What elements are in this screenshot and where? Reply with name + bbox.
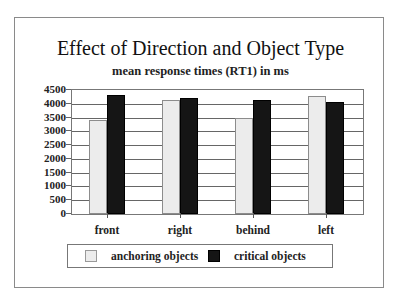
bar-front-anchoring	[89, 120, 107, 215]
x-label-right: right	[144, 224, 216, 237]
bar-left-anchoring	[308, 96, 326, 214]
x-tick-mark	[253, 213, 254, 218]
x-tick-mark	[107, 213, 108, 218]
chart-title: Effect of Direction and Object Type	[0, 37, 401, 59]
y-tick-label: 3000	[20, 124, 66, 136]
y-tick-label: 500	[20, 193, 66, 205]
x-label-left: left	[290, 224, 362, 237]
bar-behind-critical	[253, 100, 271, 214]
legend-label-anchoring: anchoring objects	[111, 249, 198, 263]
x-label-behind: behind	[217, 224, 289, 237]
y-tick-label: 1500	[20, 166, 66, 178]
legend-label-critical: critical objects	[234, 249, 306, 263]
bar-right-anchoring	[162, 100, 180, 214]
y-tick-label: 1000	[20, 179, 66, 191]
plot-area	[71, 89, 364, 215]
bar-right-critical	[180, 98, 198, 214]
y-tick-label: 0	[20, 207, 66, 219]
chart-subtitle: mean response times (RT1) in ms	[0, 64, 401, 78]
y-tick-label: 4500	[20, 83, 66, 95]
legend-swatch-critical	[208, 250, 220, 262]
bar-front-critical	[107, 95, 125, 214]
y-tick-label: 2500	[20, 138, 66, 150]
bar-left-critical	[326, 102, 344, 214]
bar-behind-anchoring	[235, 118, 253, 214]
x-label-front: front	[71, 224, 143, 237]
x-tick-mark	[326, 213, 327, 218]
legend: anchoring objects critical objects	[67, 244, 333, 268]
x-tick-mark	[180, 213, 181, 218]
y-tick-label: 2000	[20, 152, 66, 164]
y-tick-label: 4000	[20, 97, 66, 109]
y-tick-label: 3500	[20, 111, 66, 123]
legend-swatch-anchoring	[85, 250, 97, 262]
